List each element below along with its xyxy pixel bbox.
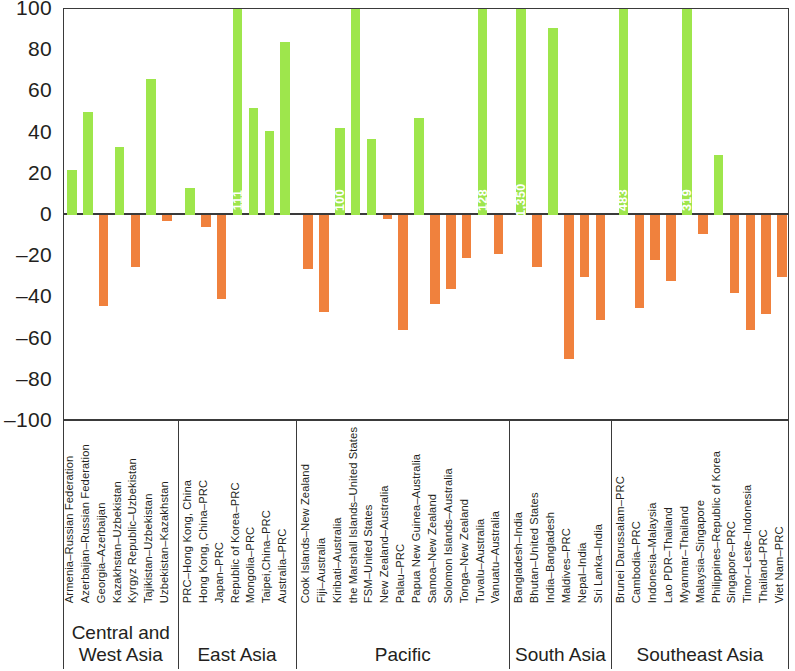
y-tick-label: 100 — [16, 0, 52, 20]
bar — [761, 215, 771, 314]
group-box-top-rule — [179, 420, 296, 421]
bar: 1,350 — [516, 9, 526, 215]
y-tick-label: –40 — [16, 284, 52, 308]
bar-value-label: 483 — [616, 189, 630, 211]
bar — [635, 215, 645, 308]
plot-area: 1111001281,350483319 — [63, 8, 789, 420]
bar — [383, 215, 393, 219]
bar — [131, 215, 141, 267]
bars-layer: 1111001281,350483319 — [64, 9, 788, 419]
y-tick-label: –80 — [16, 367, 52, 391]
bar: 128 — [478, 9, 488, 215]
group-label-band: Central and West AsiaEast AsiaPacificSou… — [63, 420, 789, 671]
bar — [303, 215, 313, 269]
bar — [414, 118, 424, 215]
chart-page: 100806040200–20–40–60–80–100 1111001281,… — [0, 0, 795, 671]
bar — [430, 215, 440, 304]
bar: 319 — [682, 9, 692, 215]
y-tick-label: 60 — [28, 78, 52, 102]
bar — [548, 28, 558, 215]
bar — [265, 131, 275, 215]
bar — [666, 215, 676, 281]
bar — [596, 215, 606, 320]
bar — [185, 188, 195, 215]
bar — [249, 108, 259, 215]
bar-value-label: 319 — [680, 189, 694, 211]
group-box: East Asia — [178, 420, 296, 669]
bar — [494, 215, 504, 254]
group-box: South Asia — [509, 420, 611, 669]
bar — [746, 215, 756, 330]
bar — [714, 155, 724, 215]
group-box: Pacific — [296, 420, 509, 669]
bar: 111 — [233, 9, 243, 215]
y-tick-label: 20 — [28, 161, 52, 185]
bar — [146, 79, 156, 215]
bar — [162, 215, 172, 221]
bar — [777, 215, 787, 277]
y-tick-label: 80 — [28, 37, 52, 61]
y-axis: 100806040200–20–40–60–80–100 — [0, 8, 60, 420]
y-tick-label: 0 — [40, 202, 52, 226]
y-tick-label: –20 — [16, 243, 52, 267]
group-box: Central and West Asia — [63, 420, 178, 669]
bar — [319, 215, 329, 312]
group-box-top-rule — [297, 420, 509, 421]
group-name: South Asia — [510, 644, 611, 665]
bar — [532, 215, 542, 267]
group-box: Southeast Asia — [611, 420, 789, 669]
group-name: Pacific — [297, 644, 509, 665]
bar — [462, 215, 472, 258]
bar — [83, 112, 93, 215]
bar-value-label: 128 — [476, 189, 490, 211]
bar — [367, 139, 377, 215]
bar-value-label: 100 — [333, 189, 347, 211]
bar — [564, 215, 574, 359]
bar: 100 — [335, 128, 345, 215]
bar: 483 — [619, 9, 629, 215]
group-name: East Asia — [179, 644, 296, 665]
bar — [446, 215, 456, 289]
bar — [351, 9, 361, 215]
group-box-top-rule — [64, 420, 178, 421]
bar — [698, 215, 708, 234]
group-box-top-rule — [510, 420, 611, 421]
bar — [99, 215, 109, 306]
bar — [217, 215, 227, 299]
y-tick-label: –60 — [16, 326, 52, 350]
y-tick-label: 40 — [28, 120, 52, 144]
bar-value-label: 111 — [231, 190, 245, 211]
bar — [115, 147, 125, 215]
bar — [650, 215, 660, 260]
bar — [201, 215, 211, 227]
y-tick-label: –100 — [4, 408, 52, 432]
bar — [398, 215, 408, 330]
bar-value-label: 1,350 — [514, 183, 528, 216]
group-box-top-rule — [612, 420, 788, 421]
bar — [280, 42, 290, 215]
bar — [730, 215, 740, 293]
bar — [580, 215, 590, 277]
bar — [67, 170, 77, 215]
group-name: Southeast Asia — [612, 644, 788, 665]
group-name: Central and West Asia — [64, 622, 178, 665]
